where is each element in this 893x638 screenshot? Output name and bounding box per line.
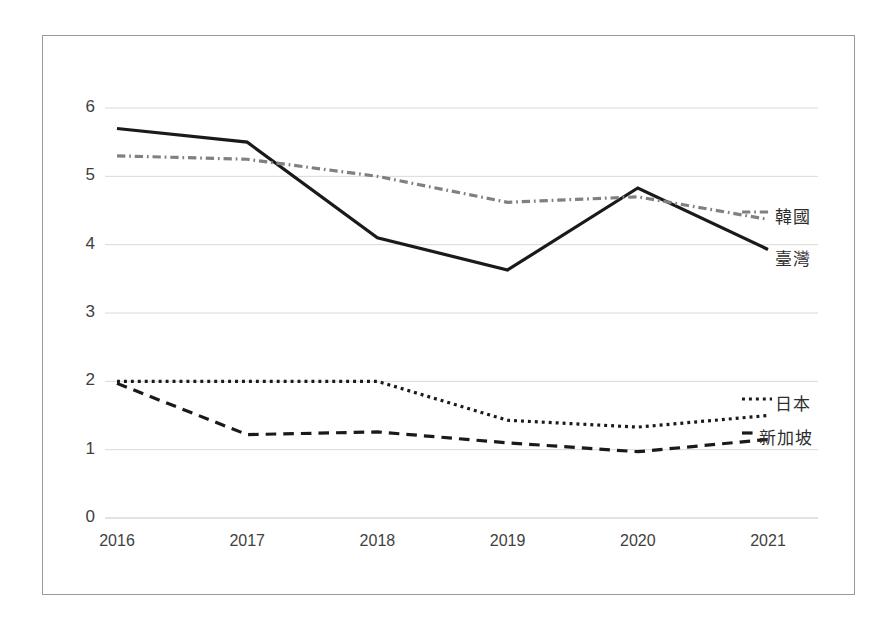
series-label-taiwan: 臺灣 <box>775 245 811 270</box>
x-tick-label-2019: 2019 <box>473 532 543 550</box>
x-tick-label-2017: 2017 <box>212 532 282 550</box>
chart-frame <box>42 35 855 595</box>
x-tick-label-2016: 2016 <box>82 532 152 550</box>
series-label-korea: 韓國 <box>775 203 811 228</box>
y-tick-label-4: 4 <box>65 234 95 254</box>
y-tick-label-0: 0 <box>65 507 95 527</box>
x-tick-label-2018: 2018 <box>342 532 412 550</box>
x-tick-label-2021: 2021 <box>733 532 803 550</box>
x-tick-label-2020: 2020 <box>603 532 673 550</box>
y-tick-label-2: 2 <box>65 370 95 390</box>
series-label-singapore: 新加坡 <box>759 424 813 449</box>
y-tick-label-5: 5 <box>65 165 95 185</box>
y-tick-label-6: 6 <box>65 97 95 117</box>
series-label-japan: 日本 <box>775 390 811 415</box>
y-tick-label-3: 3 <box>65 302 95 322</box>
y-tick-label-1: 1 <box>65 439 95 459</box>
